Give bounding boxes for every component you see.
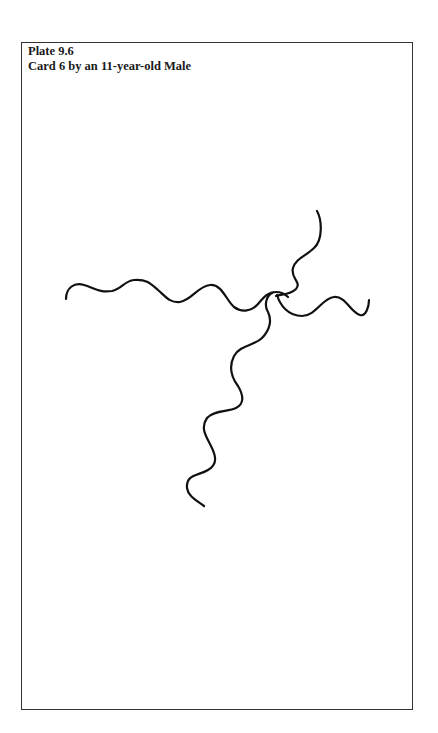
right-wavy-branch [277,295,369,316]
lower-vertical-wavy-line [187,293,272,506]
upper-right-wavy-line [276,211,321,296]
horizontal-wavy-line [66,280,288,311]
wavy-line-drawing [0,0,438,733]
